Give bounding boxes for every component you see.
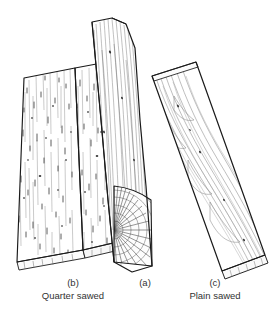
caption-letter-c: (c) [160,277,270,289]
plain-sawed-face-grain [148,58,271,276]
log-wedge-end-fan [112,184,160,272]
caption-layer: (b) Quarter sawed (a) (c) Plain sawed [0,276,273,324]
figure-root: (b) Quarter sawed (a) (c) Plain sawed [0,0,273,324]
caption-name-b: Quarter sawed [13,289,133,302]
caption-plain-sawed: (c) Plain sawed [160,277,270,302]
plain-sawed-board-group [148,58,271,279]
caption-name-c: Plain sawed [160,289,270,302]
